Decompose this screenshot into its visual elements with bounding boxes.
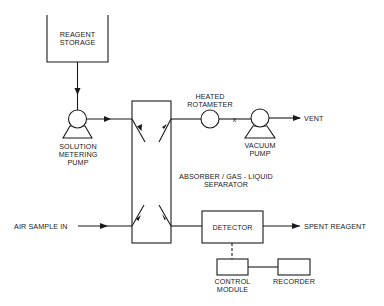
detector-label: DETECTOR xyxy=(212,223,252,232)
metering-pump-label-3: PUMP xyxy=(67,158,88,167)
rotameter-icon xyxy=(201,110,219,128)
vacuum-pump-label-2: PUMP xyxy=(249,149,270,158)
control-module-box: CONTROL MODULE xyxy=(215,259,251,294)
reagent-storage-tank: REAGENT STORAGE xyxy=(47,15,108,62)
vent-label: VENT xyxy=(304,114,324,123)
pump-icon xyxy=(69,110,87,128)
air-sample-in-label: AIR SAMPLE IN xyxy=(14,222,68,231)
spent-reagent-line: SPENT REAGENT xyxy=(263,222,366,231)
vacuum-pump: VACUUM PUMP xyxy=(244,109,275,158)
flow-diagram: REAGENT STORAGE SOLUTION METERING PUMP A… xyxy=(0,0,384,306)
arrow-down-icon xyxy=(75,88,81,95)
recorder-label: RECORDER xyxy=(273,277,315,286)
spent-reagent-label: SPENT REAGENT xyxy=(304,222,366,231)
recorder-box: RECORDER xyxy=(273,259,315,286)
gas-outlet-line: HEATED ROTAMETER x xyxy=(171,92,251,128)
storage-to-pump-line xyxy=(75,62,81,110)
vent-line: VENT xyxy=(269,114,324,123)
pump-to-absorber-line xyxy=(87,116,133,122)
arrow-right-icon xyxy=(104,116,111,122)
arrow-right-icon xyxy=(293,115,301,121)
reagent-storage-label-2: STORAGE xyxy=(60,38,96,47)
arrow-right-icon xyxy=(100,223,108,229)
control-module-label-2: MODULE xyxy=(217,285,248,294)
detector-box: DETECTOR xyxy=(202,211,263,243)
pump-icon xyxy=(251,109,269,127)
absorber-label-2: SEPARATOR xyxy=(204,180,248,189)
air-sample-inlet: AIR SAMPLE IN xyxy=(14,222,132,231)
rotameter-label-2: ROTAMETER xyxy=(187,100,233,109)
valve-mark: x xyxy=(233,115,237,124)
arrow-right-icon xyxy=(292,223,300,229)
